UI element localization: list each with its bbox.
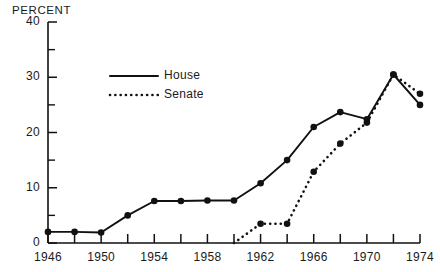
- x-tick-label: 1974: [398, 250, 440, 264]
- x-tick-label: 1958: [185, 250, 229, 264]
- series-line-senate: [234, 75, 420, 244]
- data-point-senate: [284, 220, 291, 227]
- x-tick-label: 1966: [292, 250, 336, 264]
- data-point-senate: [390, 71, 397, 78]
- x-tick-label: 1962: [239, 250, 283, 264]
- data-point-house: [204, 197, 211, 204]
- legend-label-senate: Senate: [164, 87, 204, 101]
- data-point-senate: [417, 91, 424, 98]
- data-point-house: [151, 198, 158, 205]
- data-point-house: [98, 229, 105, 236]
- data-point-house: [257, 180, 264, 187]
- x-tick-label: 1954: [132, 250, 176, 264]
- data-point-senate: [257, 220, 264, 227]
- series-line-house: [48, 75, 420, 233]
- data-point-senate: [364, 119, 371, 126]
- data-point-house: [417, 102, 424, 109]
- x-tick-label: 1970: [345, 250, 389, 264]
- data-point-senate: [310, 168, 317, 175]
- data-point-house: [71, 229, 78, 236]
- x-tick-label: 1946: [26, 250, 70, 264]
- x-tick-label: 1950: [79, 250, 123, 264]
- data-point-house: [178, 198, 185, 205]
- y-tick-label: 20: [14, 125, 40, 139]
- y-tick-label: 30: [14, 69, 40, 83]
- legend-label-house: House: [164, 68, 200, 82]
- chart-container: PERCENT 010203040 1946195019541958196219…: [0, 0, 440, 272]
- y-tick-label: 40: [14, 14, 40, 28]
- data-point-house: [231, 197, 238, 204]
- data-point-house: [310, 124, 317, 131]
- data-point-house: [337, 109, 344, 116]
- data-point-house: [45, 229, 52, 236]
- chart-plot-area: [0, 0, 440, 272]
- data-point-house: [124, 212, 131, 219]
- y-tick-label: 0: [14, 235, 40, 249]
- data-point-house: [284, 157, 291, 164]
- data-point-senate: [337, 140, 344, 147]
- y-tick-label: 10: [14, 180, 40, 194]
